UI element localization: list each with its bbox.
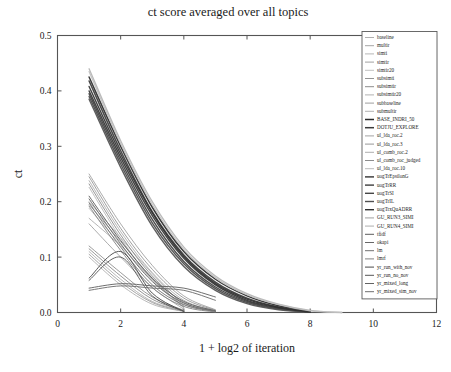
legend-item-label[interactable]: subbaseline: [377, 100, 402, 106]
y-axis-label: ct: [11, 169, 25, 178]
legend[interactable]: baselinemultirsimtisimtirsimtir20subsimt…: [362, 32, 437, 299]
legend-item-label[interactable]: subsimtir: [377, 83, 396, 89]
legend-item-label[interactable]: yr_mixed_long: [377, 280, 409, 286]
legend-item-label[interactable]: simti: [377, 50, 388, 56]
x-tick-label: 4: [181, 319, 186, 329]
legend-item-label[interactable]: yr_run_with_nov: [377, 264, 413, 270]
legend-item-label[interactable]: baseline: [377, 34, 394, 40]
x-tick-label: 8: [308, 319, 313, 329]
y-tick-label: 0.2: [40, 197, 52, 207]
line-chart: ct score averaged over all topics 0.00.1…: [0, 0, 451, 372]
legend-item-label[interactable]: DOTJU_EXPLORE: [377, 124, 419, 130]
y-tick-label: 0.3: [40, 142, 52, 152]
x-tick-label: 2: [118, 319, 123, 329]
legend-item-label[interactable]: uogTrxQuADRR: [377, 206, 413, 212]
legend-item-label[interactable]: uogTrEpsilonG: [377, 173, 409, 179]
chart-canvas: ct score averaged over all topics 0.00.1…: [0, 0, 451, 372]
legend-item-label[interactable]: yr_mixed_sim_nov: [377, 288, 417, 294]
legend-item-label[interactable]: ul_comb_roc.2: [377, 149, 408, 155]
x-tick-label: 6: [245, 319, 250, 329]
legend-item-label[interactable]: GU_RUN3_SIMI: [377, 214, 414, 220]
chart-title: ct score averaged over all topics: [148, 5, 309, 19]
legend-item-label[interactable]: multir: [377, 42, 390, 48]
legend-item-label[interactable]: uogTrSI: [377, 190, 394, 196]
legend-item-label[interactable]: subsimtir20: [377, 91, 402, 97]
x-tick-label: 12: [432, 319, 442, 329]
y-tick-label: 0.5: [40, 31, 52, 41]
legend-item-label[interactable]: uogTrRR: [377, 182, 397, 188]
legend-item-label[interactable]: okapi: [377, 239, 389, 245]
legend-item-label[interactable]: ul_lda_roc.2: [377, 132, 403, 138]
legend-item-label[interactable]: simtir20: [377, 67, 394, 73]
y-tick-label: 0.0: [40, 308, 52, 318]
y-tick-label: 0.4: [40, 86, 52, 96]
legend-item-label[interactable]: ul_lda_roc.3: [377, 141, 403, 147]
legend-item-label[interactable]: ul_lda_roc.10: [377, 165, 406, 171]
legend-item-label[interactable]: uogTrIL: [377, 198, 394, 204]
legend-item-label[interactable]: yr_run_no_nov: [377, 272, 409, 278]
legend-item-label[interactable]: BASE_INDRI_50: [377, 116, 415, 122]
x-axis-label: 1 + log2 of iteration: [199, 341, 295, 355]
x-tick-label: 0: [55, 319, 60, 329]
legend-item-label[interactable]: ul_comb_roc_judged: [377, 157, 421, 163]
legend-item-label[interactable]: submultir: [377, 108, 397, 114]
x-tick-label: 10: [369, 319, 379, 329]
legend-item-label[interactable]: lm: [377, 247, 382, 253]
legend-item-label[interactable]: lmrf: [377, 255, 386, 261]
legend-item-label[interactable]: tfidf: [377, 231, 386, 237]
legend-item-label[interactable]: simtir: [377, 59, 389, 65]
legend-item-label[interactable]: subsimti: [377, 75, 395, 81]
y-tick-label: 0.1: [40, 253, 52, 263]
legend-item-label[interactable]: GU_RUN4_SIMI: [377, 223, 414, 229]
